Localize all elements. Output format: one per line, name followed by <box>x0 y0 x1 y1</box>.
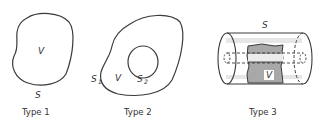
panel-type-2: V S 1 S 2 Type 2 <box>91 15 183 117</box>
inner-tube-left-end <box>224 53 230 63</box>
volume-label: V <box>115 73 122 83</box>
panel-type-3: V S Type 3 <box>218 20 312 117</box>
cylinder-right-cap <box>303 33 312 84</box>
inner-surface-subscript: 2 <box>144 78 148 85</box>
caption-type-2: Type 2 <box>123 107 152 117</box>
caption-type-3: Type 3 <box>248 107 277 117</box>
inner-boundary <box>128 46 158 78</box>
panel-type-1: V S Type 1 <box>13 13 73 117</box>
shade-band-top <box>226 38 302 43</box>
inner-surface-label: S <box>137 74 143 84</box>
surface-label: S <box>262 20 268 30</box>
outer-surface-subscript: 1 <box>98 78 102 85</box>
volume-label: V <box>266 70 273 80</box>
inner-tube-right-end <box>300 53 306 63</box>
outer-surface-label: S <box>91 74 97 84</box>
tube-section-cut <box>248 52 283 62</box>
diagram-canvas: V S Type 1 V S 1 S 2 Type 2 <box>0 0 327 125</box>
surface-label: S <box>35 90 41 100</box>
volume-label: V <box>38 46 45 56</box>
caption-type-1: Type 1 <box>21 107 50 117</box>
